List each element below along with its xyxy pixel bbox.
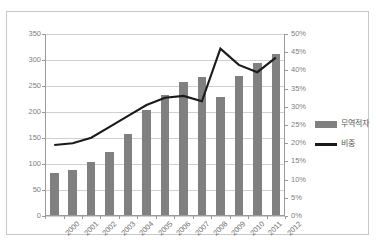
x-tick — [45, 216, 46, 219]
x-tick — [267, 216, 268, 219]
right-axis-tick — [285, 161, 288, 162]
right-axis-tick-label: 0% — [291, 212, 319, 219]
right-axis-tick — [285, 34, 288, 35]
x-tick — [193, 216, 194, 219]
left-axis-tick — [42, 216, 45, 217]
x-axis-label-2003: 2003 — [119, 220, 136, 237]
chart-screenshot: 350300250200150100500 50%45%40%35%30%25%… — [0, 0, 376, 246]
right-axis-tick — [285, 89, 288, 90]
right-axis-tick-label: 40% — [291, 66, 319, 73]
x-axis-label-2012: 2012 — [286, 220, 303, 237]
left-axis-tick-label: 200 — [11, 108, 41, 115]
right-axis-tick — [285, 107, 288, 108]
right-axis-tick-label: 50% — [291, 30, 319, 37]
x-axis-label-2004: 2004 — [138, 220, 155, 237]
x-axis-label-2009: 2009 — [230, 220, 247, 237]
right-axis-tick — [285, 198, 288, 199]
right-axis-tick — [285, 180, 288, 181]
right-axis-tick — [285, 143, 288, 144]
x-axis-label-2005: 2005 — [156, 220, 173, 237]
right-axis-tick — [285, 216, 288, 217]
right-axis-tick-label: 10% — [291, 176, 319, 183]
legend-label-line: 비중 — [341, 138, 355, 150]
left-axis-tick — [42, 190, 45, 191]
chart-legend: 무역적자 비중 — [315, 116, 376, 156]
left-axis-tick-label: 350 — [11, 30, 41, 37]
right-axis-tick-label: 45% — [291, 48, 319, 55]
left-axis-tick — [42, 86, 45, 87]
left-axis-tick-label: 250 — [11, 82, 41, 89]
legend-label-bar: 무역적자 — [341, 118, 369, 130]
x-axis-label-2001: 2001 — [83, 220, 100, 237]
x-axis-label-2007: 2007 — [193, 220, 210, 237]
x-axis-label-2002: 2002 — [101, 220, 118, 237]
x-axis-label-2010: 2010 — [249, 220, 266, 237]
left-axis-tick — [42, 34, 45, 35]
right-axis-tick — [285, 70, 288, 71]
left-axis-tick-label: 100 — [11, 160, 41, 167]
x-tick — [248, 216, 249, 219]
x-axis-label-2011: 2011 — [267, 220, 284, 237]
x-tick — [211, 216, 212, 219]
right-axis-tick — [285, 52, 288, 53]
left-axis-tick — [42, 164, 45, 165]
x-tick — [174, 216, 175, 219]
x-tick — [64, 216, 65, 219]
x-tick — [82, 216, 83, 219]
left-axis-tick — [42, 138, 45, 139]
x-tick — [137, 216, 138, 219]
right-axis-tick-label: 5% — [291, 194, 319, 201]
legend-item-line: 비중 — [315, 136, 376, 156]
legend-item-bar: 무역적자 — [315, 116, 376, 136]
left-axis-tick-label: 0 — [11, 212, 41, 219]
x-axis-label-2006: 2006 — [175, 220, 192, 237]
right-axis-tick-label: 15% — [291, 157, 319, 164]
x-axis-label-2000: 2000 — [64, 220, 81, 237]
x-tick — [119, 216, 120, 219]
x-axis-label-2008: 2008 — [212, 220, 229, 237]
right-axis-tick-label: 35% — [291, 85, 319, 92]
legend-line-swatch-icon — [315, 143, 337, 146]
left-axis-tick — [42, 60, 45, 61]
x-tick — [156, 216, 157, 219]
legend-bar-swatch-icon — [315, 121, 337, 128]
x-tick — [230, 216, 231, 219]
x-tick — [100, 216, 101, 219]
plot-area — [45, 34, 285, 216]
right-axis-tick-label: 30% — [291, 103, 319, 110]
line-series-비중 — [45, 34, 285, 216]
left-axis-line — [45, 34, 46, 216]
left-axis-tick-label: 50 — [11, 186, 41, 193]
right-axis-tick — [285, 125, 288, 126]
left-axis-tick — [42, 112, 45, 113]
chart-container: 350300250200150100500 50%45%40%35%30%25%… — [6, 11, 369, 235]
header-cropped-text — [248, 0, 376, 9]
left-axis-tick-label: 150 — [11, 134, 41, 141]
left-axis-tick-label: 300 — [11, 56, 41, 63]
